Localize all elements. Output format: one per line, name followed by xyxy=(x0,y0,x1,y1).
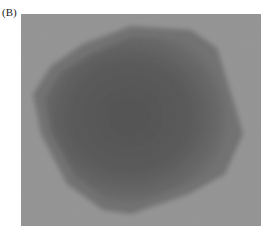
micrograph-image xyxy=(21,14,261,226)
particle-micrograph xyxy=(21,14,261,226)
panel-label: (B) xyxy=(2,6,17,18)
